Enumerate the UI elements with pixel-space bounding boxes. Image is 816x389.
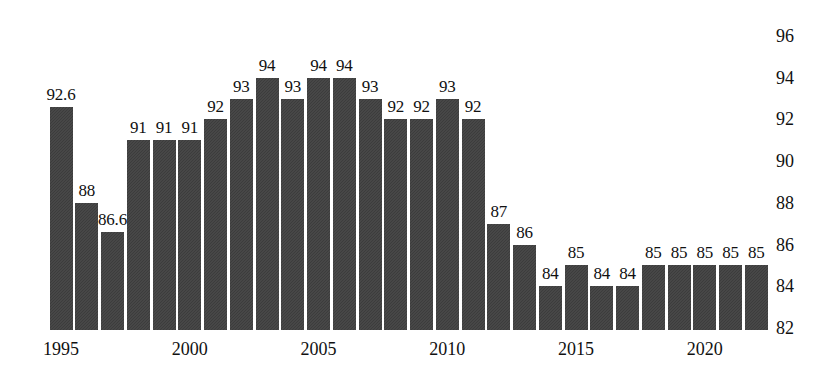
bar-value-label: 92 [204,98,228,115]
bar-value-label: 84 [616,265,640,282]
y-axis-tick-label: 94 [776,69,794,87]
bar-value-label: 94 [332,57,356,74]
bar-value-label: 85 [564,244,588,261]
bar-value-label: 93 [281,78,305,95]
bar [333,78,356,330]
y-axis-tick-label: 96 [776,27,794,45]
bar-value-label: 84 [590,265,614,282]
bar-value-label: 91 [178,119,202,136]
bar-value-label: 85 [641,244,665,261]
bar [384,119,407,330]
bar-value-label: 92.6 [41,86,81,103]
bar-value-label: 92 [461,98,485,115]
bar-value-label: 87 [487,203,511,220]
bar [590,286,613,330]
y-axis-tick-label: 84 [776,277,794,295]
bar [101,232,124,330]
bar-value-label: 86 [513,224,537,241]
y-axis-tick-label: 92 [776,110,794,128]
bar [127,140,150,330]
bar-chart: 92.68886.6919191929394939494939292939287… [0,0,816,389]
bar-value-label: 84 [538,265,562,282]
bar [230,99,253,330]
bar [50,107,73,330]
bar [642,265,665,330]
y-axis-tick-label: 90 [776,152,794,170]
y-axis-tick-label: 86 [776,236,794,254]
bar-value-label: 93 [229,78,253,95]
bar-value-label: 91 [126,119,150,136]
bar [153,140,176,330]
bar [281,99,304,330]
bar [359,99,382,330]
x-axis-tick-label: 2010 [417,340,477,358]
bar-value-label: 94 [307,57,331,74]
bar-value-label: 92 [384,98,408,115]
bar [616,286,639,330]
x-axis-tick-label: 2015 [546,340,606,358]
x-axis-tick-label: 2005 [289,340,349,358]
bar-value-label: 94 [255,57,279,74]
bar [565,265,588,330]
bar [410,119,433,330]
bar [256,78,279,330]
bar-value-label: 93 [435,78,459,95]
y-axis-tick-label: 88 [776,194,794,212]
y-axis: 9694929088868482 [762,0,816,389]
bar-value-label: 88 [75,182,99,199]
bar [693,265,716,330]
bar [204,119,227,330]
bar-value-label: 91 [152,119,176,136]
bar [719,265,742,330]
y-axis-tick-label: 82 [776,319,794,337]
bar-value-label: 85 [693,244,717,261]
x-axis-tick-label: 2000 [160,340,220,358]
plot-area: 92.68886.6919191929394939494939292939287… [0,0,760,389]
bar-value-label: 92 [410,98,434,115]
bar [462,119,485,330]
x-axis-tick-label: 1995 [31,340,91,358]
x-axis-tick-label: 2020 [675,340,735,358]
bar [668,265,691,330]
bar [487,224,510,330]
bar [436,99,459,330]
bar-value-label: 93 [358,78,382,95]
bar [539,286,562,330]
bar [513,245,536,330]
bar [178,140,201,330]
bar [307,78,330,330]
bar-value-label: 85 [719,244,743,261]
bar-value-label: 85 [667,244,691,261]
